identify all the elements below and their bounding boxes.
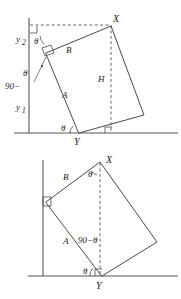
upper-label-y1: y <box>15 102 20 112</box>
lower-label-side-b: B <box>63 172 69 182</box>
lower-figure-panel: X Y B A 90−θ θ θ <box>0 150 181 299</box>
upper-label-side-a: A <box>61 90 68 100</box>
upper-complement-dot <box>41 65 43 67</box>
upper-label-x: X <box>112 13 120 24</box>
upper-label-y2-subscript: 2 <box>22 38 26 47</box>
upper-figure-svg: X Y B A H y 2 y 1 θ θ 90− θ <box>0 0 181 150</box>
upper-theta-bottom-arc <box>70 126 73 133</box>
lower-label-theta-bottom: θ <box>83 266 88 276</box>
upper-theta-top-arc <box>40 36 44 44</box>
lower-label-theta-top: θ <box>88 169 93 179</box>
upper-label-y2: y <box>15 34 20 44</box>
lower-figure-svg: X Y B A 90−θ θ θ <box>0 150 181 299</box>
upper-label-side-b: B <box>66 45 72 55</box>
upper-label-theta-top: θ <box>34 36 39 46</box>
upper-label-y: Y <box>74 136 81 147</box>
upper-label-complement-theta: θ <box>23 68 28 78</box>
upper-complement-leader <box>34 57 46 82</box>
geometry-diagram-stack: X Y B A H y 2 y 1 θ θ 90− θ <box>0 0 181 299</box>
lower-label-complement: 90−θ <box>78 235 98 245</box>
upper-figure-panel: X Y B A H y 2 y 1 θ θ 90− θ <box>0 0 181 150</box>
upper-label-theta-bottom: θ <box>61 123 66 133</box>
lower-label-y: Y <box>96 280 103 291</box>
upper-label-complement-prefix: 90− <box>5 81 20 91</box>
upper-label-height-h: H <box>97 74 105 84</box>
upper-label-y1-subscript: 1 <box>22 106 26 115</box>
lower-theta-bottom-arc <box>90 268 93 276</box>
lower-label-x: X <box>105 154 113 165</box>
lower-label-side-a: A <box>62 236 69 246</box>
upper-axis-right-angle-marker <box>30 26 37 33</box>
upper-rectangle <box>46 26 144 133</box>
